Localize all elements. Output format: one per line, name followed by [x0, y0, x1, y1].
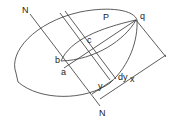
line-q-dim	[136, 20, 166, 57]
neutral-axis	[30, 14, 100, 106]
diagram-canvas: N N P q c b a y dy x	[0, 0, 178, 119]
label-y: y	[98, 81, 103, 91]
hatched-area	[61, 20, 136, 61]
outer-boundary	[15, 9, 137, 96]
strip-line-1	[60, 13, 110, 80]
label-c: c	[87, 35, 92, 45]
label-n-top: N	[22, 5, 29, 15]
label-a: a	[61, 67, 66, 77]
label-q: q	[140, 11, 145, 21]
label-p: P	[103, 12, 109, 22]
label-b: b	[55, 55, 60, 65]
dimension-y	[92, 80, 113, 94]
label-dy: dy	[118, 72, 128, 82]
label-x: x	[130, 74, 135, 84]
label-n-bottom: N	[99, 108, 106, 118]
